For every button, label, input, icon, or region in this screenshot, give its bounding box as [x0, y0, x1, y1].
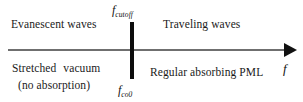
label-traveling-waves: Traveling waves	[163, 18, 240, 31]
label-no-absorption: (no absorption)	[18, 79, 90, 92]
cutoff-divider-tick	[130, 22, 134, 79]
label-regular-absorbing-pml: Regular absorbing PML	[150, 66, 263, 79]
label-f-cutoff: fcutoff	[112, 3, 133, 19]
label-axis-variable-f: f	[283, 61, 287, 77]
label-stretched-vacuum: Stretched vacuum	[12, 62, 100, 75]
label-f-co0: fco0	[118, 83, 132, 99]
regime-diagram: Evanescent waves Traveling waves Stretch…	[0, 0, 303, 102]
axis-arrow-icon	[284, 43, 297, 57]
label-f-co0-subscript: co0	[121, 90, 132, 99]
label-f-cutoff-subscript: cutoff	[115, 10, 133, 19]
frequency-axis-line	[8, 49, 291, 51]
label-evanescent-waves: Evanescent waves	[11, 18, 97, 31]
label-stretched-vacuum-word1: Stretched	[12, 62, 56, 74]
label-stretched-vacuum-word2: vacuum	[63, 62, 100, 74]
